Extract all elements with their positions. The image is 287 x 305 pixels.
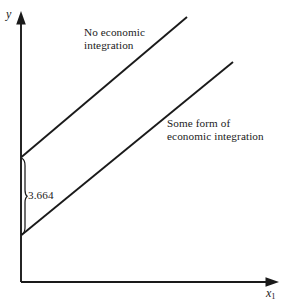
- y-axis-label: y: [6, 7, 11, 22]
- economic-integration-figure: y x1 No economicintegration Some form of…: [0, 0, 287, 305]
- x-axis-label: x1: [266, 286, 276, 301]
- annotation-some-economic-integration-line2: economic integration: [167, 130, 264, 142]
- annotation-no-economic-integration: No economicintegration: [84, 26, 145, 52]
- annotation-no-economic-integration-line1: No economic: [84, 26, 145, 38]
- x-axis-label-subscript: 1: [271, 291, 275, 301]
- annotation-some-economic-integration: Some form ofeconomic integration: [167, 117, 264, 143]
- y-axis-arrowhead: [16, 11, 26, 25]
- line-some-economic-integration: [22, 62, 234, 235]
- intercept-gap-value-label: 3.664: [28, 189, 54, 202]
- annotation-no-economic-integration-line2: integration: [84, 39, 134, 51]
- annotation-some-economic-integration-line1: Some form of: [167, 117, 230, 129]
- intercept-gap-brace: [22, 159, 27, 235]
